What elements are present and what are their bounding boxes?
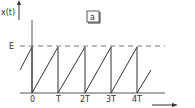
time-arrow-icon — [152, 103, 178, 107]
y-axis-label: x(t) — [1, 8, 15, 17]
tick-3T: 3T — [106, 95, 116, 104]
tick-2T: 2T — [80, 95, 90, 104]
y-axis-arrow-icon — [17, 0, 21, 20]
panel-label-box: a — [87, 11, 100, 23]
tick-0: 0 — [30, 95, 35, 104]
level-label: E — [9, 42, 14, 51]
tick-T: T — [55, 95, 61, 104]
tick-4T: 4T — [132, 95, 142, 104]
panel-label: a — [90, 13, 95, 22]
sawtooth-diagram: x(t) a E 0 T 2T 3T 4T — [0, 0, 195, 108]
sawtooth-signal — [20, 47, 151, 93]
